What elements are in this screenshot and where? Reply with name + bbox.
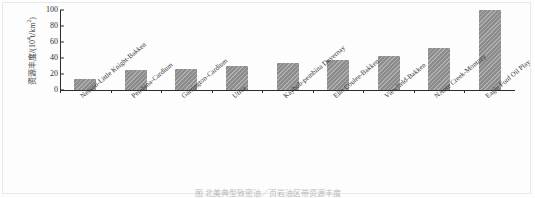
y-tick-mark <box>60 58 64 59</box>
x-tick-mark <box>111 90 112 93</box>
y-tick-mark <box>60 74 64 75</box>
x-tick-mark <box>313 90 314 93</box>
figure-caption: 图 北美典型致密油／页岩油区带资源丰度 <box>0 188 535 198</box>
x-tick-mark <box>161 90 162 93</box>
x-axis-category-label: Utica <box>231 84 248 100</box>
x-tick-mark <box>464 90 465 93</box>
x-tick-mark <box>212 90 213 93</box>
x-tick-mark <box>414 90 415 93</box>
x-tick-mark <box>363 90 364 93</box>
x-axis-category-label: Elm Coulee-Bakken <box>332 57 381 100</box>
figure-container: 资源丰度/(104t/km2) 020406080100 Nesson-Litt… <box>0 0 535 198</box>
x-axis-category-label: NAnte Creek-Montney <box>433 52 488 100</box>
plot-area: 资源丰度/(104t/km2) 020406080100 Nesson-Litt… <box>0 0 535 198</box>
y-tick-mark <box>60 42 64 43</box>
x-tick-mark <box>60 90 61 93</box>
y-tick-mark <box>60 26 64 27</box>
x-axis-category-label: Viewfield-Bakken <box>383 61 427 100</box>
x-axis-category-label: Garrington-Cardium <box>180 57 229 100</box>
x-axis-category-label: Eagle Ford Oil Play <box>484 58 532 100</box>
y-tick-mark <box>60 10 64 11</box>
x-tick-mark <box>262 90 263 93</box>
x-axis-labels: Nesson-Little Knight-BakkenPembina-Cardi… <box>0 0 535 198</box>
x-axis-category-label: Pembina-Cardium <box>130 61 174 100</box>
